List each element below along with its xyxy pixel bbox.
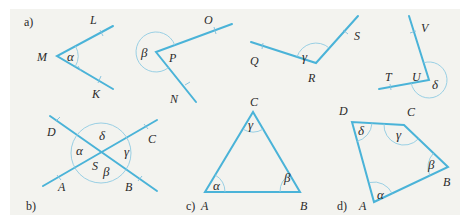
point-a-label: A	[57, 180, 66, 194]
angle-beta-label: β	[427, 157, 435, 172]
vertex-d-label: D	[338, 104, 348, 118]
point-m-label: M	[36, 50, 48, 64]
point-t-label: T	[385, 70, 393, 84]
angle-gamma-label: γ	[248, 117, 254, 132]
part-d-label: d)	[337, 199, 347, 213]
point-l-label: L	[89, 13, 97, 27]
vertex-b-label: B	[443, 175, 451, 189]
angle-delta-label: δ	[99, 128, 106, 143]
point-c-label: C	[148, 132, 157, 146]
angle-m-rays	[57, 26, 113, 89]
point-s-center-label: S	[92, 159, 98, 173]
angle-alpha-label: α	[67, 49, 75, 64]
point-r-label: R	[307, 71, 316, 85]
vertex-b-label: B	[300, 199, 308, 213]
vertex-a-label: A	[200, 199, 209, 213]
angle-alpha-label: α	[76, 143, 84, 158]
point-b-label: B	[125, 180, 133, 194]
ray-tick	[185, 82, 190, 85]
angle-gamma-label: γ	[396, 127, 402, 142]
part-b-label: b)	[26, 199, 36, 213]
angle-beta-label: β	[283, 170, 291, 185]
point-p-label: P	[168, 51, 177, 65]
angle-delta-label: δ	[358, 123, 365, 138]
angle-delta-label: δ	[432, 77, 439, 92]
angle-beta-label: β	[140, 45, 148, 60]
angle-alpha-label: α	[377, 187, 385, 202]
angle-gamma-label: γ	[302, 49, 308, 64]
point-d-label: D	[46, 125, 56, 139]
angle-gamma-label: γ	[124, 144, 130, 159]
angles-diagram: a) L M K α O P N β Q R S γ T U V δ b) D …	[0, 0, 466, 223]
point-k-label: K	[91, 87, 101, 101]
vertex-c-label: C	[250, 95, 259, 109]
part-c-label: c)	[186, 199, 195, 213]
point-s-label: S	[354, 29, 360, 43]
part-a-label: a)	[24, 15, 33, 29]
angle-alpha-label: α	[213, 178, 221, 193]
ray-tick	[390, 84, 391, 90]
vertex-c-label: C	[407, 105, 416, 119]
point-n-label: N	[169, 92, 179, 106]
angle-m-arc	[75, 46, 78, 67]
ray-tick	[262, 43, 263, 49]
point-q-label: Q	[250, 54, 259, 68]
point-v-label: V	[421, 21, 430, 35]
point-u-label: U	[412, 70, 422, 84]
point-o-label: O	[204, 13, 213, 27]
angle-p-group	[136, 24, 232, 102]
vertex-a-label: A	[358, 199, 367, 213]
angle-m-group	[57, 26, 113, 89]
angle-beta-label: β	[102, 164, 110, 179]
